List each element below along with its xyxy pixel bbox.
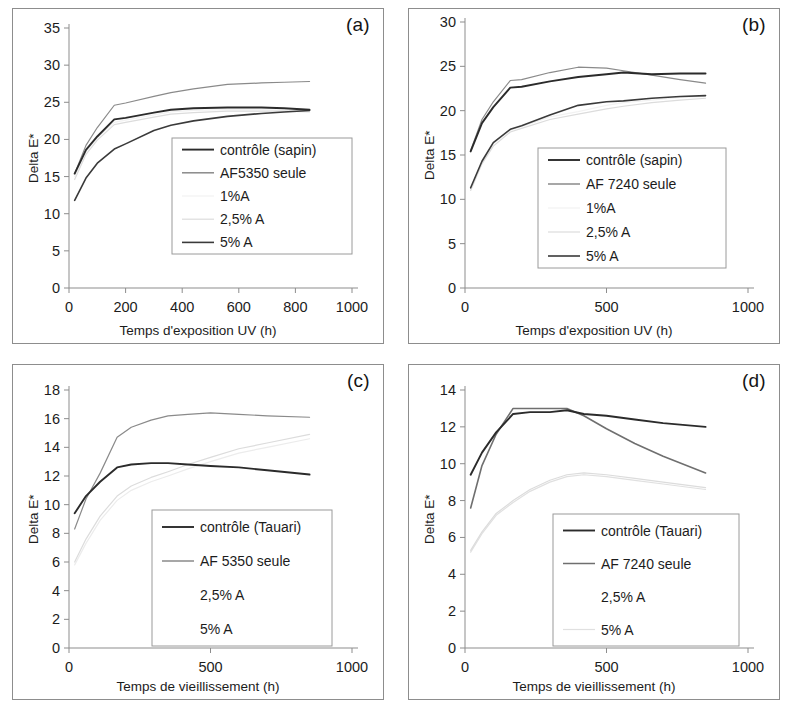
- panel-d: 0246810121405001000contrôle (Tauari)AF 7…: [396, 356, 792, 712]
- svg-text:1000: 1000: [732, 299, 764, 315]
- svg-text:2: 2: [52, 611, 60, 627]
- panel-d-x-axis-title: Temps de vieillissement (h): [408, 679, 780, 694]
- svg-text:10: 10: [440, 191, 456, 207]
- svg-text:12: 12: [44, 468, 60, 484]
- svg-text:400: 400: [170, 299, 194, 315]
- svg-text:1000: 1000: [336, 299, 368, 315]
- svg-text:0: 0: [52, 280, 60, 296]
- svg-text:10: 10: [44, 497, 60, 513]
- svg-text:AF 7240 seule: AF 7240 seule: [601, 556, 691, 572]
- svg-text:0: 0: [65, 299, 73, 315]
- panel-c-plot: 02468101214161805001000contrôle (Tauari)…: [12, 364, 384, 700]
- svg-text:0: 0: [52, 640, 60, 656]
- svg-text:14: 14: [44, 439, 60, 455]
- svg-text:14: 14: [440, 382, 456, 398]
- panel-b-plot: 05101520253005001000contrôle (sapin)AF 7…: [408, 8, 780, 344]
- svg-text:500: 500: [594, 299, 618, 315]
- svg-text:0: 0: [65, 659, 73, 675]
- figure-four-panel-chart: 0510152025303502004006008001000contrôle …: [0, 0, 792, 712]
- svg-text:8: 8: [448, 493, 456, 509]
- svg-text:1%A: 1%A: [220, 188, 250, 204]
- panel-a-y-axis-title: Delta E*: [26, 133, 41, 183]
- svg-text:8: 8: [52, 525, 60, 541]
- svg-text:AF 7240 seule: AF 7240 seule: [586, 176, 676, 192]
- svg-text:10: 10: [44, 206, 60, 222]
- svg-text:5: 5: [448, 236, 456, 252]
- svg-text:AF5350 seule: AF5350 seule: [220, 165, 307, 181]
- svg-text:800: 800: [283, 299, 307, 315]
- panel-a-plot: 0510152025303502004006008001000contrôle …: [12, 8, 384, 344]
- panel-b: 05101520253005001000contrôle (sapin)AF 7…: [396, 0, 792, 356]
- svg-text:2: 2: [448, 603, 456, 619]
- svg-text:contrôle (Tauari): contrôle (Tauari): [601, 523, 702, 539]
- svg-text:600: 600: [227, 299, 251, 315]
- panel-b-tag: (b): [742, 14, 766, 36]
- panel-a-x-axis-title: Temps d'exposition UV (h): [12, 323, 384, 338]
- svg-text:5% A: 5% A: [586, 248, 619, 264]
- svg-text:25: 25: [440, 58, 456, 74]
- panel-c-tag: (c): [347, 370, 370, 392]
- svg-text:2,5% A: 2,5% A: [200, 587, 245, 603]
- svg-text:0: 0: [461, 659, 469, 675]
- svg-text:500: 500: [198, 659, 222, 675]
- svg-text:5% A: 5% A: [601, 622, 634, 638]
- panel-b-x-axis-title: Temps d'exposition UV (h): [408, 323, 780, 338]
- svg-text:15: 15: [440, 147, 456, 163]
- panel-c: 02468101214161805001000contrôle (Tauari)…: [0, 356, 396, 712]
- svg-text:5% A: 5% A: [200, 621, 233, 637]
- svg-text:18: 18: [44, 382, 60, 398]
- svg-text:1%A: 1%A: [586, 200, 616, 216]
- svg-text:AF 5350 seule: AF 5350 seule: [200, 553, 290, 569]
- svg-text:0: 0: [461, 299, 469, 315]
- svg-text:25: 25: [44, 94, 60, 110]
- panel-b-y-axis-title: Delta E*: [422, 130, 437, 180]
- svg-text:contrôle (sapin): contrôle (sapin): [220, 142, 317, 158]
- svg-text:5% A: 5% A: [220, 234, 253, 250]
- svg-text:5: 5: [52, 243, 60, 259]
- svg-text:35: 35: [44, 20, 60, 36]
- svg-text:12: 12: [440, 419, 456, 435]
- svg-text:1000: 1000: [336, 659, 368, 675]
- svg-text:20: 20: [44, 131, 60, 147]
- svg-text:30: 30: [44, 57, 60, 73]
- svg-text:15: 15: [44, 169, 60, 185]
- svg-text:6: 6: [448, 529, 456, 545]
- svg-text:30: 30: [440, 14, 456, 30]
- svg-text:10: 10: [440, 456, 456, 472]
- svg-text:2,5% A: 2,5% A: [586, 224, 631, 240]
- svg-text:contrôle (Tauari): contrôle (Tauari): [200, 519, 301, 535]
- panel-d-y-axis-title: Delta E*: [422, 494, 437, 544]
- svg-text:4: 4: [52, 583, 60, 599]
- panel-a: 0510152025303502004006008001000contrôle …: [0, 0, 396, 356]
- svg-text:2,5% A: 2,5% A: [220, 211, 265, 227]
- svg-text:200: 200: [113, 299, 137, 315]
- svg-text:0: 0: [448, 280, 456, 296]
- panel-d-tag: (d): [742, 370, 766, 392]
- svg-text:500: 500: [594, 659, 618, 675]
- svg-text:16: 16: [44, 411, 60, 427]
- panel-c-y-axis-title: Delta E*: [26, 494, 41, 544]
- svg-text:2,5% A: 2,5% A: [601, 589, 646, 605]
- svg-text:1000: 1000: [732, 659, 764, 675]
- svg-text:0: 0: [448, 640, 456, 656]
- panel-d-plot: 0246810121405001000contrôle (Tauari)AF 7…: [408, 364, 780, 700]
- panel-c-x-axis-title: Temps de vieillissement (h): [12, 679, 384, 694]
- panel-a-tag: (a): [346, 14, 370, 36]
- svg-text:contrôle (sapin): contrôle (sapin): [586, 152, 683, 168]
- svg-text:4: 4: [448, 566, 456, 582]
- svg-text:6: 6: [52, 554, 60, 570]
- svg-text:20: 20: [440, 103, 456, 119]
